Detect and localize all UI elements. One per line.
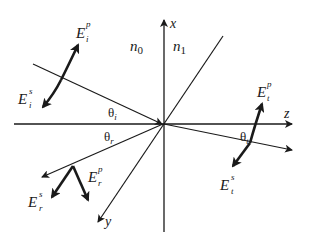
- svg-text:p: p: [85, 19, 91, 29]
- reflected-p-field-arrow: [73, 166, 88, 200]
- theta-t-label: θt: [240, 129, 249, 146]
- svg-text:s: s: [231, 172, 235, 182]
- svg-text:E: E: [17, 91, 27, 107]
- x-axis-label: x: [169, 16, 177, 31]
- svg-text:p: p: [266, 79, 272, 89]
- svg-text:i: i: [29, 100, 32, 110]
- reflected-s-label: E s r: [27, 189, 43, 213]
- reflected-ray: [42, 124, 163, 177]
- fresnel-diagram: x z y n0 n1 θi θr θt E p i E s i: [0, 0, 311, 237]
- svg-text:E: E: [27, 194, 37, 210]
- incident-s-field-arrow: [43, 80, 61, 107]
- svg-text:t: t: [267, 93, 270, 103]
- svg-text:E: E: [219, 177, 229, 193]
- y-axis-label: y: [103, 214, 112, 229]
- svg-text:t: t: [231, 186, 234, 196]
- svg-text:r: r: [39, 203, 43, 213]
- svg-text:s: s: [29, 86, 33, 96]
- svg-text:E: E: [75, 25, 85, 41]
- svg-text:p: p: [97, 164, 103, 174]
- svg-text:r: r: [98, 178, 102, 188]
- transmitted-ray: [164, 124, 292, 150]
- svg-text:s: s: [39, 189, 43, 199]
- incident-p-label: E p i: [75, 19, 91, 44]
- z-axis-label: z: [283, 106, 290, 121]
- medium-n1-label: n1: [173, 38, 186, 56]
- svg-text:E: E: [256, 84, 266, 100]
- reflected-p-label: E p r: [87, 164, 103, 188]
- incident-p-field-arrow: [61, 45, 78, 80]
- transmitted-p-label: E p t: [256, 79, 272, 103]
- transmitted-s-field-arrow: [233, 143, 250, 166]
- incident-s-label: E s i: [17, 86, 33, 110]
- y-axis: [98, 36, 223, 222]
- svg-text:i: i: [86, 34, 89, 44]
- theta-i-label: θi: [108, 105, 117, 122]
- theta-r-label: θr: [104, 129, 114, 146]
- svg-text:E: E: [87, 169, 97, 185]
- medium-n0-label: n0: [130, 38, 144, 56]
- transmitted-s-label: E s t: [219, 172, 235, 196]
